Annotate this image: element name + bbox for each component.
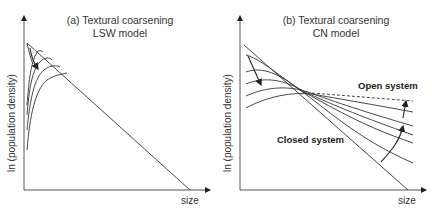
panel-b-xlabel: size: [398, 195, 416, 206]
panel-a-title: (a) Textural coarsening LSW model: [60, 14, 180, 40]
panel-b-title-line1: (b) Textural coarsening: [276, 14, 396, 27]
panel-a-title-line2: LSW model: [60, 27, 180, 40]
panel-a-ylabel: ln (population density): [6, 74, 17, 172]
panel-a-title-line1: (a) Textural coarsening: [60, 14, 180, 27]
panel-b-ylabel: ln (population density): [222, 74, 233, 172]
closed-system-label: Closed system: [277, 134, 344, 145]
panel-b-title-line2: CN model: [276, 27, 396, 40]
panel-b-title: (b) Textural coarsening CN model: [276, 14, 396, 40]
panel-a-xlabel: size: [181, 195, 199, 206]
panel-a-axes: [24, 16, 210, 190]
panel-a-curves: [27, 43, 190, 190]
panel-b-axes: [240, 16, 426, 190]
panel-b-curves: [244, 45, 413, 190]
open-system-label: Open system: [358, 80, 418, 91]
figure: (a) Textural coarsening LSW model ln (po…: [0, 0, 436, 215]
